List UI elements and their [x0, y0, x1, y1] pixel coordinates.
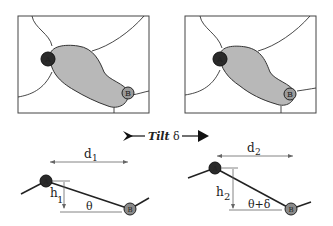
svg-text:A: A	[211, 165, 218, 173]
point-a-label: A	[44, 55, 51, 64]
svg-text:1: 1	[57, 194, 63, 205]
angle-label: θ	[86, 200, 93, 213]
point-b-label: B	[125, 89, 131, 98]
svg-text:B: B	[127, 206, 132, 214]
svg-text:B: B	[288, 206, 293, 214]
svg-text:2: 2	[224, 191, 230, 202]
profile-before: d 1 h 1 θ A B	[21, 147, 149, 215]
tilt-label: Tilt	[148, 130, 170, 143]
profile-after: d 2 h 2 θ+δ A B	[188, 141, 311, 215]
height-label: h	[216, 185, 224, 199]
tilt-diagram: A B A B Tilt δ d 1	[0, 0, 333, 226]
svg-text:1: 1	[92, 153, 98, 163]
tilt-symbol: δ	[173, 130, 180, 143]
point-b-label: B	[287, 90, 293, 99]
svg-text:A: A	[42, 178, 49, 186]
point-a-label: A	[216, 55, 223, 64]
map-panel-before: A B	[18, 16, 149, 113]
angle-label: θ+δ	[248, 198, 271, 211]
svg-text:2: 2	[255, 147, 261, 157]
distance-label: d	[84, 147, 92, 161]
tilt-indicator: Tilt δ	[123, 130, 209, 143]
arrow-head-icon	[198, 130, 209, 142]
distance-label: d	[247, 141, 255, 155]
map-panel-after: A B	[185, 16, 316, 113]
